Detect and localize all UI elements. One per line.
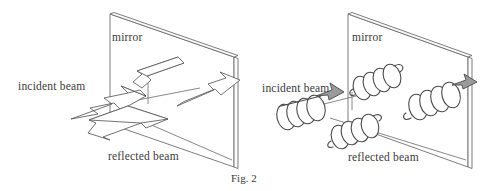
figure-artwork: [0, 0, 501, 191]
left-incident-beam-label: incident beam: [18, 81, 85, 93]
right-mirror-label: mirror: [352, 32, 383, 44]
left-reflected-beam-label: reflected beam: [108, 151, 179, 163]
right-incident-beam-label: incident beam: [262, 83, 329, 95]
left-panel-group: [71, 13, 240, 169]
figure-container: incident beam mirror reflected beam inci…: [0, 0, 501, 191]
right-reflected-beam-label: reflected beam: [348, 152, 419, 164]
left-mirror-label: mirror: [112, 32, 143, 44]
figure-caption: Fig. 2: [231, 172, 257, 184]
left-mirror-thickness-edge: [234, 57, 238, 169]
right-mirror-thickness-edge: [468, 57, 472, 169]
